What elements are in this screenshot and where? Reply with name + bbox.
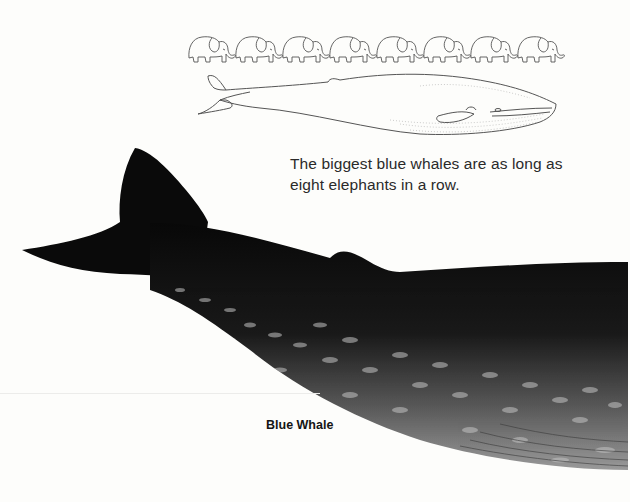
blue-whale-tail-icon bbox=[0, 140, 630, 502]
elephant-icon bbox=[377, 37, 424, 62]
elephant-icon bbox=[283, 37, 330, 62]
elephant-icon bbox=[236, 37, 283, 62]
elephant-icon bbox=[518, 37, 565, 62]
elephant-icon bbox=[189, 37, 236, 62]
divider bbox=[0, 393, 320, 394]
elephant-icon bbox=[424, 37, 471, 62]
elephant-icon bbox=[330, 37, 377, 62]
elephant-icon bbox=[471, 37, 518, 62]
figure-label: Blue Whale bbox=[266, 418, 333, 432]
elephant-row bbox=[186, 30, 586, 68]
whale-outline-icon bbox=[190, 68, 560, 144]
